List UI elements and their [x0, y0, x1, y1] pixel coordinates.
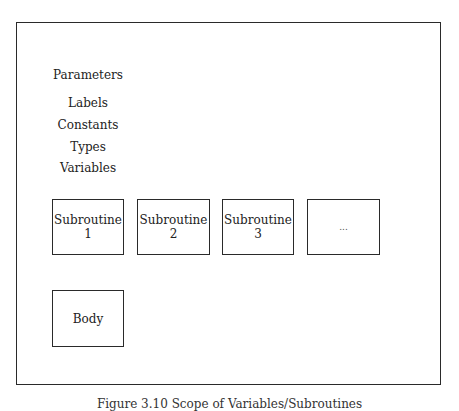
body-label: Body [73, 312, 104, 326]
more-subroutines-box: ... [307, 199, 380, 255]
subroutine-title: Subroutine [140, 213, 208, 227]
declaration-parameters: Parameters [38, 68, 138, 82]
ellipsis-label: ... [339, 220, 348, 234]
figure-caption: Figure 3.10 Scope of Variables/Subroutin… [0, 397, 459, 411]
declaration-types: Types [38, 140, 138, 154]
subroutine-number: 3 [254, 227, 262, 241]
subroutine-title: Subroutine [54, 213, 122, 227]
subroutine-title: Subroutine [224, 213, 292, 227]
declaration-variables: Variables [38, 161, 138, 175]
subroutine-number: 2 [170, 227, 178, 241]
subroutine-1-box: Subroutine 1 [52, 199, 124, 255]
subroutine-3-box: Subroutine 3 [222, 199, 294, 255]
declaration-labels: Labels [38, 96, 138, 110]
subroutine-number: 1 [84, 227, 92, 241]
body-box: Body [52, 290, 124, 347]
declaration-constants: Constants [38, 118, 138, 132]
subroutine-2-box: Subroutine 2 [137, 199, 210, 255]
